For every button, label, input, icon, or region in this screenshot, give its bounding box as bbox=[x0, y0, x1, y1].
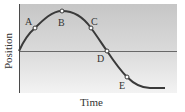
point-a-marker bbox=[33, 26, 37, 30]
y-axis-label-text: Position bbox=[2, 33, 14, 69]
point-d-label: D bbox=[97, 53, 104, 64]
plot-background bbox=[19, 4, 177, 93]
point-d-marker bbox=[105, 49, 109, 53]
point-e-label: E bbox=[119, 80, 125, 91]
point-c-label: C bbox=[91, 16, 98, 27]
point-b-label: B bbox=[58, 17, 65, 28]
point-e-marker bbox=[125, 75, 129, 79]
x-axis-label: Time bbox=[80, 96, 103, 108]
point-b-marker bbox=[60, 9, 64, 13]
position-time-chart: A B C D E Position Time bbox=[0, 0, 185, 112]
point-a-label: A bbox=[25, 16, 33, 27]
y-axis-label: Position bbox=[1, 20, 15, 82]
